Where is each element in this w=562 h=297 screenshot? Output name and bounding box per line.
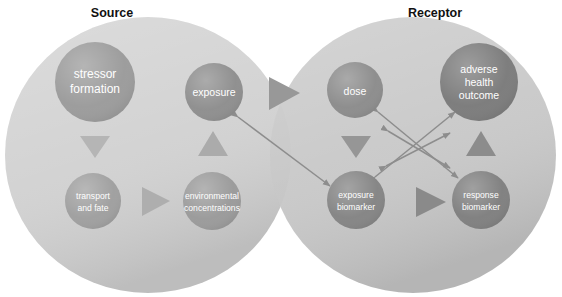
- node-transport-and-fate-label-line-1: transport: [76, 191, 111, 201]
- node-dose-label: dose: [344, 85, 367, 97]
- diagram-canvas: Source Receptor stressor formation: [0, 0, 562, 297]
- node-exposure[interactable]: exposure: [185, 63, 243, 121]
- node-environmental-concentrations-label-line-2: concentrations: [184, 203, 240, 213]
- node-dose[interactable]: dose: [327, 62, 383, 118]
- node-stressor-formation-label-line-1: stressor: [74, 67, 117, 81]
- node-adverse-health-outcome-label-line-1: adverse: [460, 63, 498, 75]
- node-environmental-concentrations[interactable]: environmental concentrations: [183, 172, 241, 230]
- node-stressor-formation[interactable]: stressor formation: [55, 42, 135, 122]
- node-adverse-health-outcome[interactable]: adverse health outcome: [440, 43, 518, 121]
- node-adverse-health-outcome-label-line-2: health: [465, 76, 494, 88]
- ellipse-receptor-shading: [270, 17, 556, 293]
- node-exposure-label: exposure: [192, 86, 235, 98]
- title-source: Source: [91, 6, 133, 20]
- node-environmental-concentrations-label-line-1: environmental: [185, 191, 239, 201]
- node-transport-and-fate[interactable]: transport and fate: [65, 173, 121, 229]
- node-response-biomarker-label-line-1: response: [463, 190, 499, 200]
- node-exposure-biomarker-label-line-2: biomarker: [337, 202, 375, 212]
- source-receptor-diagram: Source Receptor stressor formation: [0, 0, 562, 297]
- node-response-biomarker-label-line-2: biomarker: [462, 202, 500, 212]
- node-response-biomarker-shading: [452, 171, 510, 229]
- node-environmental-concentrations-shading: [183, 172, 241, 230]
- ellipse-source-shading: [5, 17, 291, 293]
- node-exposure-biomarker-shading: [327, 171, 385, 229]
- node-transport-and-fate-label-line-2: and fate: [77, 203, 108, 213]
- node-response-biomarker[interactable]: response biomarker: [452, 171, 510, 229]
- node-stressor-formation-label-line-2: formation: [70, 82, 120, 96]
- node-adverse-health-outcome-label-line-3: outcome: [459, 89, 499, 101]
- node-exposure-biomarker-label-line-1: exposure: [338, 190, 374, 200]
- node-transport-and-fate-shading: [65, 173, 121, 229]
- title-receptor: Receptor: [408, 6, 462, 20]
- node-exposure-biomarker[interactable]: exposure biomarker: [327, 171, 385, 229]
